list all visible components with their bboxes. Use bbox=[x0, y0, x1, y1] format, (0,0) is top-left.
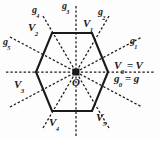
vertex-label-V2: V2 bbox=[28, 22, 38, 36]
axis-label-g4: g4 bbox=[32, 5, 40, 17]
vertex-label-V4: V4 bbox=[49, 117, 59, 131]
vertex-label-V5: V5 bbox=[96, 112, 106, 126]
center-label-O: O bbox=[72, 77, 80, 88]
axis-label-g0-identity: g0 = g bbox=[114, 73, 139, 87]
center-point-marker bbox=[73, 69, 80, 76]
vertex-label-V1: V1 bbox=[83, 18, 93, 32]
vertex-label-V3: V3 bbox=[14, 79, 24, 93]
axis-label-g2: g2 bbox=[98, 7, 106, 19]
hexagon-symmetry-figure: g4 g3 g2 V1 V2 g5 g1 V0 = V g0 = g V3 O … bbox=[0, 0, 160, 141]
axis-label-g3: g3 bbox=[62, 1, 70, 13]
axis-label-g1: g1 bbox=[130, 36, 138, 48]
axis-label-g5: g5 bbox=[3, 37, 11, 49]
